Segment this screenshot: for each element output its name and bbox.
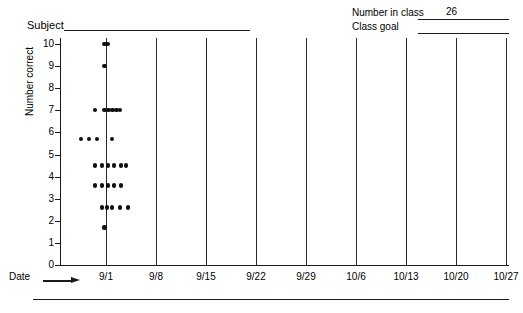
y-tick-label: 5 xyxy=(26,150,54,160)
x-axis-title: Date xyxy=(9,272,30,282)
y-tick-mark xyxy=(55,199,60,200)
data-point xyxy=(95,137,99,141)
y-axis-line xyxy=(60,38,61,266)
data-point xyxy=(79,137,83,141)
y-axis-title: Number correct xyxy=(24,47,35,116)
x-tick-label: 9/8 xyxy=(133,272,179,282)
date-gridline xyxy=(506,38,507,266)
x-tick-label: 9/1 xyxy=(83,272,129,282)
x-axis-line xyxy=(60,265,509,266)
y-tick-label: 1 xyxy=(26,238,54,248)
y-tick-mark xyxy=(55,177,60,178)
data-point xyxy=(110,137,114,141)
data-point xyxy=(106,183,110,187)
date-gridline xyxy=(256,38,257,266)
y-tick-mark xyxy=(55,221,60,222)
y-tick-label: 3 xyxy=(26,194,54,204)
data-point xyxy=(100,205,104,209)
data-point xyxy=(110,205,114,209)
x-tick-label: 10/20 xyxy=(433,272,479,282)
data-point xyxy=(112,163,116,167)
y-tick-label: 4 xyxy=(26,172,54,182)
y-tick-mark xyxy=(55,110,60,111)
y-tick-mark xyxy=(55,132,60,133)
y-tick-label: 6 xyxy=(26,127,54,137)
x-tick-label: 9/15 xyxy=(183,272,229,282)
number-in-class-value: 26 xyxy=(446,7,457,17)
subject-label: Subject xyxy=(27,20,64,31)
y-tick-label: 0 xyxy=(26,260,54,270)
data-point xyxy=(119,163,123,167)
data-point xyxy=(126,205,130,209)
data-point xyxy=(93,183,97,187)
y-tick-mark xyxy=(55,155,60,156)
class-goal-blank-line[interactable] xyxy=(418,33,509,34)
date-gridline xyxy=(106,38,107,266)
data-point xyxy=(105,42,109,46)
x-tick-label: 10/27 xyxy=(483,272,523,282)
data-point xyxy=(124,163,128,167)
data-point xyxy=(106,163,110,167)
y-tick-mark xyxy=(55,88,60,89)
data-point xyxy=(119,183,123,187)
data-point xyxy=(93,108,97,112)
date-gridline xyxy=(156,38,157,266)
y-tick-mark xyxy=(55,44,60,45)
number-in-class-label: Number in class xyxy=(352,8,424,18)
data-point xyxy=(100,183,104,187)
date-gridline xyxy=(206,38,207,266)
data-point xyxy=(112,183,116,187)
y-tick-label: 2 xyxy=(26,216,54,226)
x-tick-label: 9/22 xyxy=(233,272,279,282)
plot-area: Number correct xyxy=(60,38,509,266)
x-tick-label: 10/13 xyxy=(383,272,429,282)
y-tick-mark xyxy=(55,66,60,67)
caption-divider xyxy=(33,299,509,300)
date-gridline xyxy=(356,38,357,266)
data-point xyxy=(118,205,122,209)
x-tick-label: 9/29 xyxy=(283,272,329,282)
date-gridline xyxy=(406,38,407,266)
x-tick-label: 10/6 xyxy=(333,272,379,282)
x-axis-tick-labels: 9/19/89/159/229/2910/610/1310/2010/27 xyxy=(60,272,509,286)
date-gridline xyxy=(306,38,307,266)
data-point xyxy=(102,64,106,68)
data-point xyxy=(102,225,106,229)
data-point xyxy=(87,137,91,141)
data-point xyxy=(93,163,97,167)
y-tick-mark xyxy=(55,243,60,244)
subject-blank-line[interactable] xyxy=(64,30,250,31)
number-in-class-blank-line[interactable] xyxy=(418,19,509,20)
y-tick-mark xyxy=(55,265,60,266)
data-point xyxy=(100,163,104,167)
date-gridline xyxy=(456,38,457,266)
class-goal-label: Class goal xyxy=(352,22,399,32)
data-point xyxy=(118,108,122,112)
data-point xyxy=(105,205,109,209)
